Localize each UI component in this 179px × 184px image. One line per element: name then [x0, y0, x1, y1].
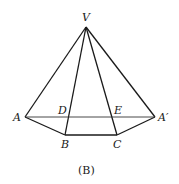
label-A: A — [12, 111, 21, 124]
edge-VC — [86, 27, 117, 135]
label-E: E — [113, 104, 122, 117]
edge-CA-prime — [117, 117, 155, 135]
pyramid-net-diagram: V A A′ B C D E (B) — [0, 0, 179, 184]
label-B: B — [60, 138, 69, 151]
label-A-prime: A′ — [157, 111, 169, 124]
edge-AB — [25, 117, 65, 135]
label-D: D — [57, 104, 67, 117]
label-V: V — [82, 11, 91, 24]
label-C: C — [113, 138, 122, 151]
figure-caption: (B) — [78, 164, 95, 177]
